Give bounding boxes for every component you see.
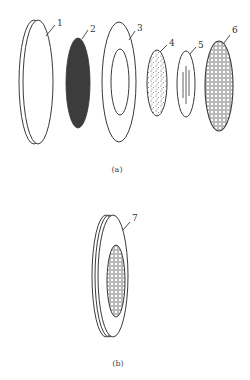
part-2-dark-disc: 2 bbox=[66, 24, 96, 128]
exploded-assembly-diagram: 1 2 3 4 5 6 (a) 7 bbox=[0, 0, 250, 380]
part-6-mesh-disc: 6 bbox=[205, 25, 238, 131]
part-1-disc: 1 bbox=[19, 18, 63, 144]
label-1: 1 bbox=[57, 18, 63, 28]
label-3: 3 bbox=[137, 23, 143, 33]
part-3-ring: 3 bbox=[102, 22, 143, 142]
label-7: 7 bbox=[132, 213, 138, 223]
caption-a: (a) bbox=[111, 165, 122, 174]
label-5: 5 bbox=[198, 40, 204, 50]
part-4-speckled-disc: 4 bbox=[147, 38, 175, 116]
caption-b: (b) bbox=[112, 359, 123, 368]
label-4: 4 bbox=[169, 38, 175, 48]
part-5-slotted-disc: 5 bbox=[177, 40, 204, 117]
part-7-assembled-disc: 7 bbox=[92, 213, 138, 337]
label-2: 2 bbox=[90, 24, 96, 34]
label-6: 6 bbox=[232, 25, 238, 35]
